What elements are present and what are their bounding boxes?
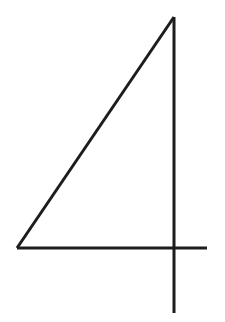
canvas-background bbox=[0, 0, 225, 322]
handwritten-digit-four-drawing bbox=[0, 0, 225, 322]
digit-canvas bbox=[0, 0, 225, 322]
